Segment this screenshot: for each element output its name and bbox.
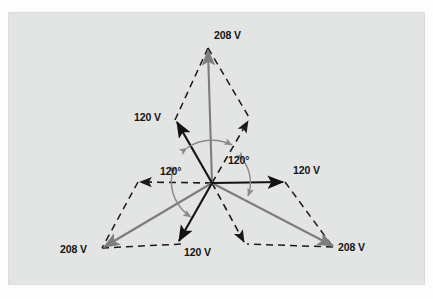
label-208v-bottom-left: 208 V (60, 244, 87, 255)
phasor-diagram-figure: 208 V 120 V 120 V 120 V 208 V 208 V 120°… (0, 0, 433, 299)
resultant-vector-208v-bottom-right (212, 183, 333, 246)
label-208v-bottom-right: 208 V (338, 242, 365, 253)
resultant-vector-208v-top (208, 50, 212, 183)
label-angle-left: 120° (160, 166, 181, 177)
dashed-vector-60deg (212, 121, 248, 183)
label-120v-upper-left: 120 V (134, 112, 161, 123)
angle-arc-left (171, 174, 191, 217)
dashed-construction-lines (102, 48, 333, 248)
label-angle-right: 120° (228, 155, 249, 166)
label-208v-top: 208 V (214, 30, 241, 41)
dashed-vector-180deg (140, 182, 212, 183)
label-120v-right: 120 V (293, 165, 320, 176)
label-120v-bottom: 120 V (184, 247, 211, 258)
phase-vector-120v-upper-left (177, 122, 212, 183)
phase-vector-120v-right (212, 182, 283, 183)
angle-arc-upper (187, 140, 232, 148)
